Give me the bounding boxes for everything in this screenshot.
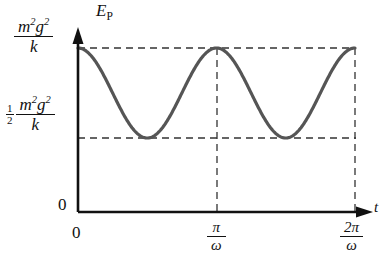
y-axis-label-main: E	[96, 1, 106, 20]
y-tick-max-den-k: k	[30, 37, 38, 56]
potential-energy-graph-figure: EP m2g2 k 1 2 m2g2 k 0 0 π ω 2π ω t	[0, 0, 381, 262]
y-tick-half-num-m: m	[20, 95, 32, 114]
x-tick-pi-den: ω	[211, 237, 222, 253]
x-tick-2pi-den: ω	[346, 237, 357, 253]
x-tick-2pi-num: 2π	[344, 219, 359, 235]
x-tick-pi-num: π	[213, 219, 221, 235]
y-axis-label: EP	[96, 2, 113, 19]
y-tick-label-half: 1 2 m2g2 k	[6, 96, 55, 133]
y-axis-label-subscript: P	[106, 10, 112, 23]
x-axis-origin-label: 0	[72, 224, 81, 241]
y-tick-half-num-g-exp: 2	[46, 94, 51, 105]
guide-lines	[78, 48, 356, 212]
x-axis	[78, 207, 373, 218]
plot-area	[0, 0, 381, 262]
y-tick-half-den-k: k	[31, 115, 39, 134]
y-axis-origin-label: 0	[58, 196, 67, 213]
y-axis	[73, 27, 84, 212]
y-tick-max-num-m: m	[18, 17, 30, 36]
x-tick-label-pi-over-omega: π ω	[207, 220, 226, 253]
x-axis-label: t	[374, 200, 378, 215]
y-tick-half-prefix-den: 2	[6, 115, 14, 126]
y-tick-half-prefix-fraction: 1 2	[6, 103, 14, 126]
y-tick-label-max: m2g2 k	[14, 18, 53, 55]
y-tick-max-num-g: g	[36, 17, 45, 36]
x-tick-label-2pi-over-omega: 2π ω	[340, 220, 363, 253]
y-tick-half-num-g: g	[37, 95, 46, 114]
y-tick-max-num-g-exp: 2	[44, 16, 49, 27]
